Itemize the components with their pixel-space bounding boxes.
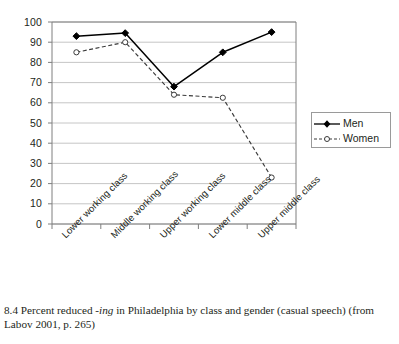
figure-8-4: 1009080706050403020100 Lower working cla… <box>0 0 399 344</box>
legend-label-men: Men <box>343 118 363 129</box>
legend-marker-women-icon <box>312 132 342 146</box>
x-axis-tick-labels: Lower working classMiddle working classU… <box>0 0 399 300</box>
caption-number: 8.4 <box>4 304 18 316</box>
legend-key-women <box>312 132 342 146</box>
caption-text-before: Percent reduced <box>21 304 96 316</box>
legend-key-men <box>312 117 342 131</box>
chart-legend: Men Women <box>311 112 391 148</box>
legend-marker-men-icon <box>312 117 342 131</box>
legend-item-women: Women <box>312 131 390 146</box>
legend-item-men: Men <box>312 116 390 131</box>
caption-italic-ing: -ing <box>95 304 113 316</box>
caption-text-after: in Philadelphia by class and gender (cas… <box>113 304 345 316</box>
legend-label-women: Women <box>343 133 379 144</box>
figure-caption: 8.4 Percent reduced -ing in Philadelphia… <box>4 303 396 331</box>
chart-plot-area: 1009080706050403020100 Lower working cla… <box>0 0 399 300</box>
